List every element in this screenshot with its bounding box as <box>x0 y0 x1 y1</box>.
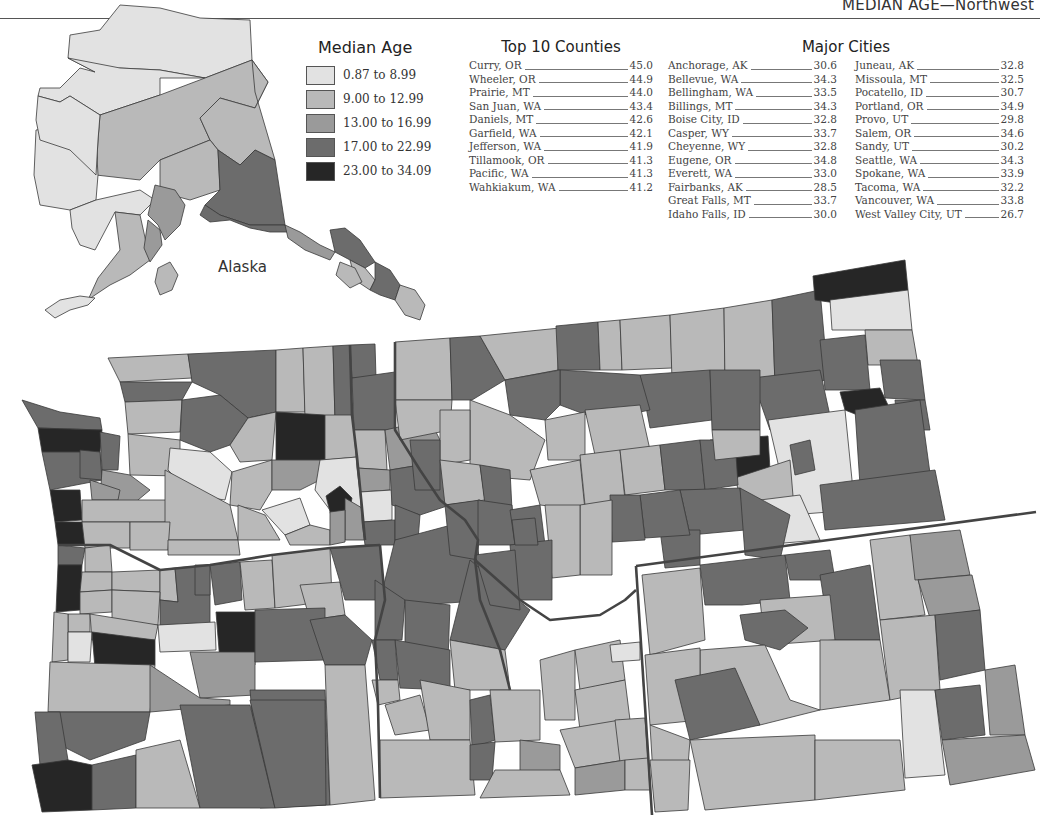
county-wheatland <box>660 440 705 490</box>
county-multnomah <box>112 570 160 592</box>
table-row: Daniels, MT42.6 <box>469 113 653 127</box>
row-value: 30.2 <box>999 140 1024 154</box>
row-name: Sandy, UT <box>855 140 912 154</box>
county-morrow <box>240 560 275 610</box>
table-row: Pacific, WA41.3 <box>469 167 653 181</box>
row-name: Seattle, WA <box>855 154 920 168</box>
county-butte <box>540 650 575 720</box>
row-value: 42.1 <box>628 127 653 141</box>
county-missoula <box>440 460 485 505</box>
county-bonner <box>352 372 395 430</box>
county-lincoln-or <box>52 612 68 662</box>
leader-line <box>926 96 999 97</box>
county-natrona <box>820 640 890 710</box>
legend-item: 17.00 to 22.99 <box>306 135 466 159</box>
leader-line <box>525 69 628 70</box>
county-nez-perce <box>362 520 395 545</box>
leader-line <box>544 109 628 110</box>
row-value: 41.9 <box>628 140 653 154</box>
table-row: Great Falls, MT33.7 <box>668 194 837 208</box>
county-pondera <box>545 412 585 460</box>
leader-line <box>539 82 628 83</box>
county-wahkiakum <box>55 522 85 545</box>
county-skamania <box>130 522 170 550</box>
leader-line <box>748 150 811 151</box>
row-value: 33.7 <box>812 127 837 141</box>
row-value: 33.5 <box>812 86 837 100</box>
leader-line <box>937 204 998 205</box>
county-granite <box>478 500 515 545</box>
legend-swatch <box>306 114 335 133</box>
row-name: Missoula, MT <box>855 73 930 87</box>
legend-label: 23.00 to 34.09 <box>343 164 431 178</box>
row-name: Tillamook, OR <box>469 154 548 168</box>
county-lake-mt <box>440 410 470 465</box>
table-row: Wheeler, OR44.9 <box>469 73 653 87</box>
leader-line <box>533 96 628 97</box>
county-curry <box>32 760 92 812</box>
table-row: Fairbanks, AK28.5 <box>668 181 837 195</box>
county-niobrara <box>935 610 985 680</box>
leader-line <box>930 82 999 83</box>
leader-line <box>532 177 628 178</box>
county-boundary <box>350 344 376 378</box>
leader-line <box>917 69 999 70</box>
county-minidoka <box>520 740 560 772</box>
county-klickitat <box>168 540 240 555</box>
county-park-wy <box>642 568 705 655</box>
legend: Median Age 0.87 to 8.99 9.00 to 12.99 13… <box>306 38 466 183</box>
county-clatsop <box>58 545 85 565</box>
row-value: 28.5 <box>812 181 837 195</box>
row-value: 33.7 <box>812 194 837 208</box>
county-snohomish <box>125 400 182 434</box>
county-caribou <box>615 718 648 762</box>
table-row: Billings, MT34.3 <box>668 100 837 114</box>
county-mccone <box>820 335 870 390</box>
county-toole <box>556 322 600 370</box>
county-musselshell <box>712 430 760 460</box>
leader-line <box>914 136 998 137</box>
row-name: Portland, OR <box>855 100 927 114</box>
county-jefferson <box>38 428 102 452</box>
row-name: Tacoma, WA <box>855 181 923 195</box>
row-value: 41.3 <box>628 154 653 168</box>
legend-swatch <box>306 90 335 109</box>
leader-line <box>754 204 812 205</box>
row-value: 26.7 <box>999 208 1024 222</box>
legend-item: 13.00 to 16.99 <box>306 111 466 135</box>
leader-line <box>749 217 812 218</box>
row-name: Cheyenne, WY <box>668 140 748 154</box>
major-cities-column-2: Juneau, AK32.8Missoula, MT32.5Pocatello,… <box>855 59 1024 221</box>
row-name: Prairie, MT <box>469 86 533 100</box>
leader-line <box>559 190 628 191</box>
row-name: Pocatello, ID <box>855 86 926 100</box>
row-value: 32.8 <box>812 113 837 127</box>
county-uinta <box>650 760 690 812</box>
county-stevens <box>303 346 335 420</box>
table-row: Jefferson, WA41.9 <box>469 140 653 154</box>
county-pacific <box>50 490 82 522</box>
county-silver-bow <box>512 518 538 545</box>
table-row: Casper, WY33.7 <box>668 127 837 141</box>
county-bannock <box>560 720 625 768</box>
row-value: 30.6 <box>812 59 837 73</box>
table-row: Tillamook, OR41.3 <box>469 154 653 168</box>
county-josephine <box>92 755 136 810</box>
row-value: 42.6 <box>628 113 653 127</box>
row-name: Casper, WY <box>668 127 732 141</box>
ak-kodiak <box>155 262 178 295</box>
county-petroleum <box>710 370 760 430</box>
county-sherman <box>195 565 210 595</box>
table-row: Portland, OR34.9 <box>855 100 1024 114</box>
county-blaine-mt <box>670 308 725 380</box>
table-row: Anchorage, AK30.6 <box>668 59 837 73</box>
county-fergus <box>640 370 712 428</box>
county-benton-or <box>68 632 92 662</box>
leader-line <box>536 123 627 124</box>
row-name: Curry, OR <box>469 59 525 73</box>
table-row: Pocatello, ID30.7 <box>855 86 1024 100</box>
table-row: Cheyenne, WY32.8 <box>668 140 837 154</box>
row-name: Bellingham, WA <box>668 86 756 100</box>
leader-line <box>912 150 999 151</box>
table-row: Idaho Falls, ID30.0 <box>668 208 837 222</box>
